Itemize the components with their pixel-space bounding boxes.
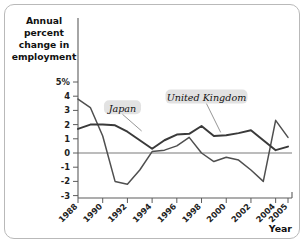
x-tick-label: 1992: [106, 201, 129, 224]
y-axis-title-line-2: change in: [19, 39, 69, 50]
x-tick-label: 2000: [204, 201, 227, 224]
x-tick-labels-group: 1988199019921994199619982000200220042005: [56, 201, 289, 224]
x-tick-label: 2002: [229, 201, 252, 224]
chart-figure: Annual percent change in employment 5%43…: [0, 0, 305, 244]
y-tick-label: 3: [64, 105, 70, 115]
series-line-united-kingdom: [78, 125, 288, 151]
y-tick-label: 1: [64, 134, 70, 144]
x-tick-label: 1988: [56, 201, 79, 224]
y-axis-title-line-1: percent: [24, 27, 65, 38]
x-tick-label: 1994: [130, 201, 153, 224]
y-tick-label: 2: [64, 120, 70, 130]
y-tick-label: 4: [64, 91, 70, 101]
x-tick-label: 1996: [155, 201, 178, 224]
series-label-leader-line: [206, 104, 220, 133]
y-tick-label: -1: [61, 162, 70, 172]
y-tick-label: 5%: [56, 77, 71, 87]
y-tick-label: -2: [61, 176, 70, 186]
series-label-leader-line: [122, 114, 141, 131]
x-tick-label: 1998: [180, 201, 203, 224]
y-tick-label: 0: [64, 148, 70, 158]
series-label-japan: Japan: [107, 103, 137, 114]
x-axis-title: Year: [268, 223, 293, 234]
y-axis-title-line-3: employment: [12, 51, 77, 62]
line-chart-svg: Annual percent change in employment 5%43…: [0, 0, 305, 244]
y-axis-title: Annual percent change in employment: [12, 15, 77, 62]
series-label-united-kingdom: United Kingdom: [167, 92, 247, 103]
y-axis-title-line-0: Annual: [26, 15, 62, 26]
series-annotations-group: JapanUnited Kingdom: [104, 90, 248, 133]
x-tick-label: 1990: [81, 201, 104, 224]
y-tick-label: -3: [61, 191, 70, 201]
y-tick-labels-group: 5%43210-1-2-3: [56, 77, 71, 201]
